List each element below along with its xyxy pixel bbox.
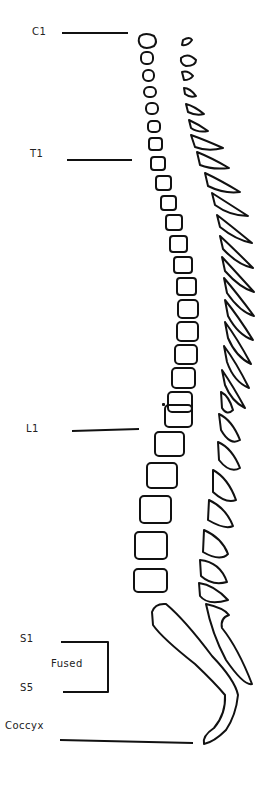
spine-drawing: [0, 0, 272, 786]
sacrum: [152, 604, 238, 744]
posterior-elements: [181, 38, 254, 684]
vertebral-bodies: [134, 34, 198, 592]
